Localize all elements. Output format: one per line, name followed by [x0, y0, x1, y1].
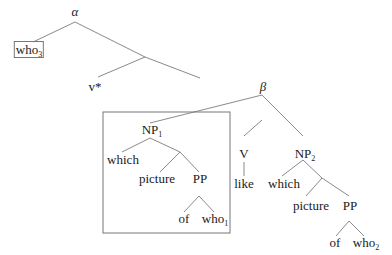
- node-v: V: [239, 147, 248, 161]
- node-np2-pp: PP: [343, 199, 357, 213]
- tree-edges: [0, 0, 392, 255]
- node-np2-of: of: [330, 236, 341, 250]
- node-beta: β: [260, 80, 266, 94]
- node-np1-of: of: [179, 212, 190, 226]
- node-who1: who1: [202, 212, 228, 226]
- node-vstar: v*: [89, 80, 102, 94]
- node-np1: NP1: [142, 123, 163, 137]
- node-alpha: α: [72, 5, 79, 19]
- node-np2-which: which: [268, 177, 300, 191]
- node-np2-picture: picture: [293, 199, 329, 213]
- node-np1-pp: PP: [193, 172, 207, 186]
- node-like: like: [234, 177, 254, 191]
- node-np1-which: which: [107, 153, 139, 167]
- node-np1-picture: picture: [139, 172, 175, 186]
- node-np2: NP2: [295, 147, 316, 161]
- node-who2: who2: [353, 236, 379, 250]
- node-who3: who3: [14, 43, 44, 57]
